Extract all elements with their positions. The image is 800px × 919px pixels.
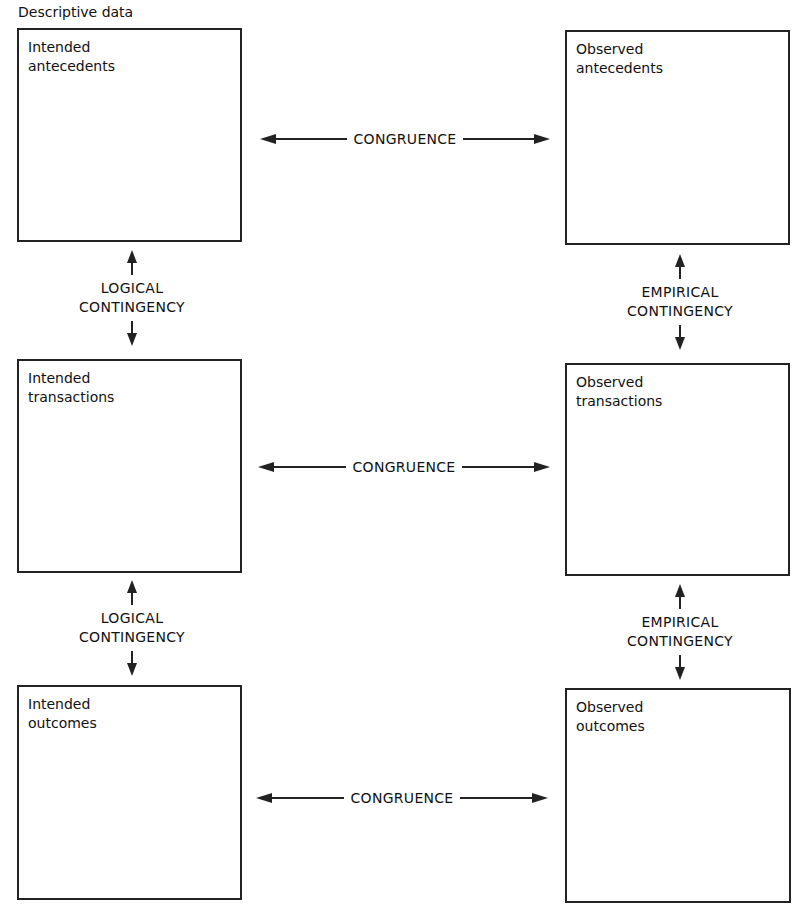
observed-transactions-box: Observed transactions	[565, 363, 790, 576]
arrow-left-icon	[258, 462, 274, 472]
logical-contingency-label: LOGICAL CONTINGENCY	[32, 609, 232, 647]
logical-contingency-2: LOGICAL CONTINGENCY	[32, 580, 232, 676]
arrow-up-icon	[127, 580, 137, 593]
empirical-contingency-2: EMPIRICAL CONTINGENCY	[580, 584, 780, 680]
congruence-connector-3: CONGRUENCE	[256, 788, 548, 808]
arrow-down-icon	[127, 663, 137, 676]
intended-outcomes-box: Intended outcomes	[17, 685, 242, 900]
logical-contingency-1: LOGICAL CONTINGENCY	[32, 250, 232, 346]
arrow-down-icon	[675, 667, 685, 680]
arrow-left-icon	[256, 793, 272, 803]
intended-transactions-box: Intended transactions	[17, 359, 242, 573]
empirical-contingency-label: EMPIRICAL CONTINGENCY	[580, 613, 780, 651]
diagram-title: Descriptive data	[18, 4, 133, 20]
congruence-label: CONGRUENCE	[347, 131, 462, 147]
observed-outcomes-box: Observed outcomes	[565, 688, 791, 903]
congruence-connector-1: CONGRUENCE	[260, 129, 550, 149]
intended-antecedents-box: Intended antecedents	[17, 28, 242, 242]
arrow-up-icon	[675, 254, 685, 267]
empirical-contingency-1: EMPIRICAL CONTINGENCY	[580, 254, 780, 350]
observed-transactions-label: Observed transactions	[576, 373, 662, 411]
arrow-down-icon	[127, 333, 137, 346]
arrow-right-icon	[534, 462, 550, 472]
arrow-right-icon	[532, 793, 548, 803]
logical-contingency-label: LOGICAL CONTINGENCY	[32, 279, 232, 317]
arrow-left-icon	[260, 134, 276, 144]
congruence-label: CONGRUENCE	[344, 790, 459, 806]
intended-antecedents-label: Intended antecedents	[28, 38, 115, 76]
arrow-down-icon	[675, 337, 685, 350]
observed-outcomes-label: Observed outcomes	[576, 698, 645, 736]
observed-antecedents-box: Observed antecedents	[565, 30, 790, 245]
intended-transactions-label: Intended transactions	[28, 369, 114, 407]
intended-outcomes-label: Intended outcomes	[28, 695, 97, 733]
congruence-connector-2: CONGRUENCE	[258, 457, 550, 477]
observed-antecedents-label: Observed antecedents	[576, 40, 663, 78]
arrow-up-icon	[675, 584, 685, 597]
arrow-up-icon	[127, 250, 137, 263]
empirical-contingency-label: EMPIRICAL CONTINGENCY	[580, 283, 780, 321]
arrow-right-icon	[534, 134, 550, 144]
congruence-label: CONGRUENCE	[346, 459, 461, 475]
